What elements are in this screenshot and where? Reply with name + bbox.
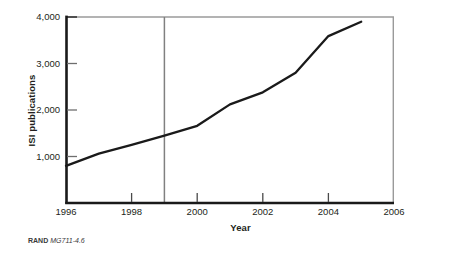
- x-tick-label-2006: 2006: [364, 206, 424, 217]
- x-tick-label-1998: 1998: [102, 206, 162, 217]
- x-tick-label-2004: 2004: [298, 206, 358, 217]
- x-axis-title-wrapper: Year: [0, 222, 451, 233]
- x-tick-label-1996: 1996: [36, 206, 96, 217]
- source-brand: RAND: [28, 237, 48, 244]
- x-axis-tick-labels: 1996 1998 2000 2002 2004 2006: [0, 0, 451, 259]
- x-tick-label-2000: 2000: [167, 206, 227, 217]
- x-tick-label-2002: 2002: [233, 206, 293, 217]
- x-axis-title: Year: [230, 222, 250, 233]
- figure-source-note: RANDMG711-4.6: [28, 237, 85, 244]
- source-document-id: MG711-4.6: [50, 237, 85, 244]
- figure-container: 4,000 3,000 2,000 1,000 ISI publications…: [0, 0, 451, 259]
